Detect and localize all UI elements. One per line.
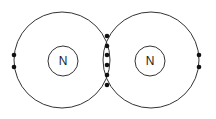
n2-bonding-diagram: N N: [0, 0, 216, 119]
left-atom-label: N: [59, 54, 68, 68]
right-atom-label: N: [146, 54, 155, 68]
